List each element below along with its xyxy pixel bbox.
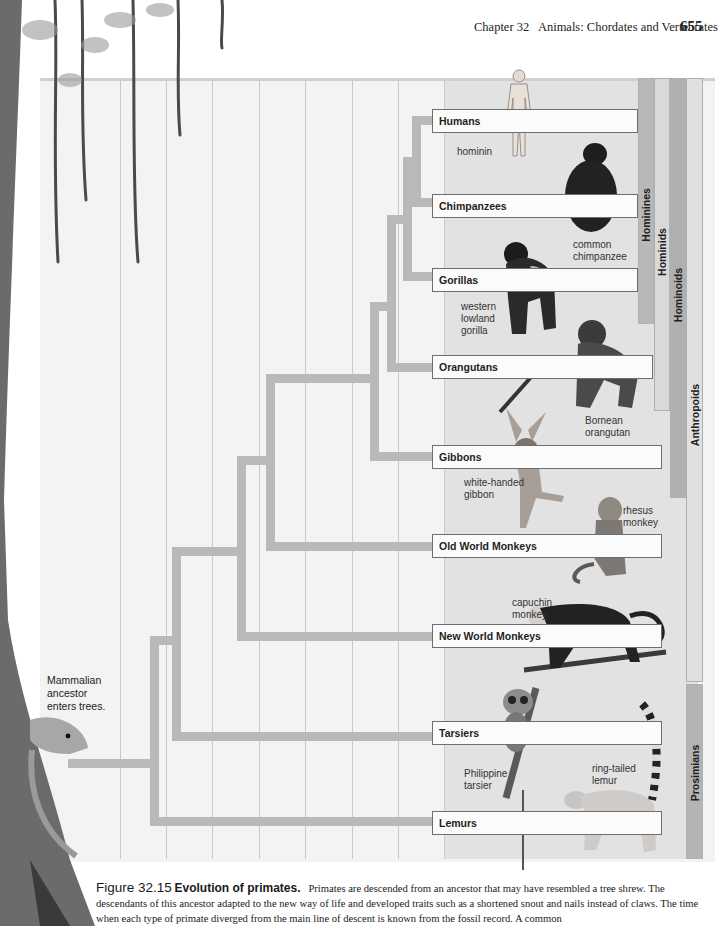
branch-node <box>266 456 275 551</box>
species-label-hominin: hominin <box>457 146 492 158</box>
clade-bar-prosimians: Prosimians <box>686 684 703 859</box>
clade-bar-hominids: Hominids <box>654 78 670 411</box>
branch-orangutans <box>387 363 432 372</box>
clade-bar-hominoids: Hominoids <box>670 78 686 498</box>
branch-humans <box>412 116 432 125</box>
branch-chimpanzees <box>412 198 432 207</box>
branch-gibbons <box>370 452 432 461</box>
branch-old-world-monkeys <box>266 542 432 551</box>
branch-node <box>387 215 396 310</box>
clade-label: Anthropoids <box>689 384 701 446</box>
branch-node <box>150 636 159 826</box>
clade-bar-hominines: Hominines <box>638 78 654 324</box>
page-number: 655 <box>680 18 703 35</box>
species-label-philippine-tarsier: Philippine tarsier <box>464 768 507 792</box>
chimpanzee-icon <box>563 138 621 234</box>
figure-caption: Figure 32.15 Evolution of primates. Prim… <box>96 880 716 926</box>
taxon-gibbons: Gibbons <box>432 445 662 469</box>
branch-node <box>403 157 412 223</box>
taxon-gorillas: Gorillas <box>432 268 638 292</box>
branch-node <box>172 636 181 741</box>
branch-node <box>370 374 379 460</box>
taxon-old-world-monkeys: Old World Monkeys <box>432 534 662 558</box>
species-label-western-lowland-gorilla: western lowland gorilla <box>461 301 496 337</box>
taxon-tarsiers: Tarsiers <box>432 721 662 745</box>
branch-node <box>172 547 244 556</box>
clade-label: Prosimians <box>689 745 701 802</box>
species-label-rhesus-monkey: rhesus monkey <box>623 505 658 529</box>
clade-label: Hominines <box>640 188 652 242</box>
branch-gorillas <box>403 272 432 281</box>
branch-node <box>237 456 246 556</box>
species-label-bornean-orangutan: Bornean orangutan <box>585 415 630 439</box>
branch-tarsiers <box>172 732 432 741</box>
branch-new-world-monkeys <box>237 632 432 641</box>
taxon-humans: Humans <box>432 109 638 133</box>
figure-number: Figure 32.15 <box>96 880 172 895</box>
taxon-new-world-monkeys: New World Monkeys <box>432 624 662 648</box>
gridline <box>305 81 306 859</box>
taxon-lemurs: Lemurs <box>432 811 662 835</box>
branch-node <box>172 547 181 645</box>
species-label-ring-tailed-lemur: ring-tailed lemur <box>592 763 636 787</box>
clade-bar-anthropoids: Anthropoids <box>686 78 703 682</box>
taxon-orangutans: Orangutans <box>432 355 653 379</box>
ancestor-shrew-icon <box>20 710 92 860</box>
branch-node <box>412 116 421 206</box>
species-label-common-chimpanzee: common chimpanzee <box>573 239 627 263</box>
species-label-white-handed-gibbon: white-handed gibbon <box>464 477 524 501</box>
branch-node <box>266 374 378 383</box>
ancestor-note: Mammalian ancestor enters trees. <box>47 674 105 713</box>
branch-lemurs <box>150 817 432 826</box>
branch-node <box>370 302 379 382</box>
species-label-capuchin-monkey: capuchin monkey <box>512 597 552 621</box>
clade-label: Hominids <box>656 228 668 276</box>
clade-label: Hominoids <box>672 268 684 322</box>
gridline <box>398 81 399 859</box>
gridline <box>352 81 353 859</box>
branch-node <box>237 547 246 641</box>
taxon-chimpanzees: Chimpanzees <box>432 194 638 218</box>
branch-node <box>387 302 396 372</box>
branch-node <box>266 374 275 464</box>
branch-node <box>403 215 412 280</box>
figure-title: Evolution of primates. <box>174 881 300 895</box>
